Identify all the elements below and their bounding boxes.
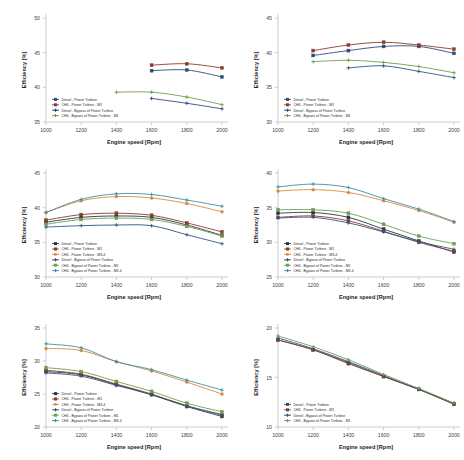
legend-label: Diesel - Bypass of Power Turbine xyxy=(62,109,114,113)
x-tick-label: 1600 xyxy=(146,282,158,288)
x-tick-label: 1800 xyxy=(413,127,425,133)
legend-item[interactable]: CH4 - Bypass of Power Turbine - M1 xyxy=(52,114,119,118)
x-tick-label: 2000 xyxy=(216,432,228,438)
legend-item[interactable]: Diesel - Power Turbine xyxy=(284,242,329,246)
x-tick-label: 1400 xyxy=(111,282,123,288)
y-tick-label: 30 xyxy=(266,119,272,125)
series-1 xyxy=(277,338,456,405)
y-tick-label: 35 xyxy=(34,119,40,125)
legend-item[interactable]: CH4 - Bypass of Power Turbine - M3-4 xyxy=(52,269,122,273)
x-tick-label: 1200 xyxy=(307,282,319,288)
series-5 xyxy=(45,217,224,238)
y-tick-label: 30 xyxy=(34,274,40,280)
legend-label: Diesel - Power Turbine xyxy=(62,98,97,102)
y-tick-label: 40 xyxy=(266,50,272,56)
legend-label: CH4 - Power Turbine - M1 xyxy=(62,247,103,251)
x-tick-label: 2000 xyxy=(216,282,228,288)
y-tick-label: 45 xyxy=(34,50,40,56)
legend-label: Diesel - Power Turbine xyxy=(294,242,329,246)
legend-item[interactable]: CH4 - Bypass of Power Turbine - M1 xyxy=(52,414,119,418)
x-tick-label: 1000 xyxy=(272,282,284,288)
x-axis-label: Engine speed [Rpm] xyxy=(339,294,393,300)
legend-item[interactable]: Diesel - Power Turbine xyxy=(284,403,329,407)
x-tick-label: 1000 xyxy=(40,127,52,133)
legend-item[interactable]: CH4 - Power Turbine - M3-4 xyxy=(284,253,337,257)
legend-label: CH4 - Bypass of Power Turbine - M1 xyxy=(62,264,119,268)
y-tick-label: 45 xyxy=(34,170,40,176)
series-3 xyxy=(45,347,224,396)
x-tick-label: 1600 xyxy=(146,127,158,133)
legend-label: Diesel - Power Turbine xyxy=(62,242,97,246)
legend-item[interactable]: Diesel - Power Turbine xyxy=(52,392,97,396)
y-axis-label: Efficiency [%] xyxy=(21,52,27,89)
legend-item[interactable]: Diesel - Bypass of Power Turbine xyxy=(284,258,345,262)
x-tick-label: 1200 xyxy=(75,127,87,133)
x-tick-label: 1400 xyxy=(111,432,123,438)
chart-panel-6: 101520100012001400160018002000Engine spe… xyxy=(232,310,464,460)
series-2 xyxy=(277,338,456,405)
series-2 xyxy=(45,212,224,234)
legend-label: CH4 - Bypass of Power Turbine - M3-4 xyxy=(62,419,122,423)
x-tick-label: 1200 xyxy=(75,432,87,438)
legend-label: CH4 - Bypass of Power Turbine - M1 xyxy=(62,114,119,118)
y-tick-label: 20 xyxy=(34,424,40,430)
legend-item[interactable]: CH4 - Power Turbine - M1 xyxy=(52,397,102,401)
y-tick-label: 35 xyxy=(266,205,272,211)
y-axis-label: Efficiency [%] xyxy=(253,359,259,396)
x-tick-label: 1200 xyxy=(307,127,319,133)
legend-item[interactable]: CH4 - Power Turbine - M1 xyxy=(284,247,334,251)
legend-label: CH4 - Power Turbine - M3-4 xyxy=(294,253,338,257)
legend-label: Diesel - Bypass of Power Turbine xyxy=(62,258,114,262)
y-axis-label: Efficiency [%] xyxy=(21,207,27,244)
y-tick-label: 35 xyxy=(266,84,272,90)
x-tick-label: 1400 xyxy=(111,127,123,133)
legend-item[interactable]: Diesel - Bypass of Power Turbine xyxy=(52,408,113,412)
y-tick-label: 25 xyxy=(34,391,40,397)
y-axis-label: Efficiency [%] xyxy=(21,359,27,396)
legend-label: Diesel - Power Turbine xyxy=(294,98,329,102)
legend-label: Diesel - Bypass of Power Turbine xyxy=(62,408,114,412)
y-tick-label: 50 xyxy=(34,15,40,21)
x-tick-label: 1800 xyxy=(413,432,425,438)
x-tick-label: 1400 xyxy=(343,127,355,133)
x-axis-label: Engine speed [Rpm] xyxy=(107,294,161,300)
x-tick-label: 1600 xyxy=(378,432,390,438)
legend-item[interactable]: CH4 - Bypass of Power Turbine - M1 xyxy=(284,264,351,268)
y-tick-label: 45 xyxy=(266,15,272,21)
legend-item[interactable]: Diesel - Bypass of Power Turbine xyxy=(284,414,345,418)
legend-item[interactable]: CH4 - Power Turbine - M3-4 xyxy=(52,403,105,407)
y-tick-label: 25 xyxy=(266,274,272,280)
legend-item[interactable]: Diesel - Power Turbine xyxy=(52,98,97,102)
legend: Diesel - Power TurbineCH4 - Power Turbin… xyxy=(52,98,119,118)
x-axis-label: Engine speed [Rpm] xyxy=(107,444,161,450)
x-tick-label: 2000 xyxy=(448,127,460,133)
legend-item[interactable]: CH4 - Bypass of Power Turbine - M1 xyxy=(284,419,351,423)
legend-item[interactable]: CH4 - Bypass of Power Turbine - M3-4 xyxy=(284,269,354,273)
legend-label: CH4 - Bypass of Power Turbine - M1 xyxy=(294,419,351,423)
legend-item[interactable]: Diesel - Power Turbine xyxy=(284,98,329,102)
legend-item[interactable]: CH4 - Power Turbine - M1 xyxy=(284,408,334,412)
legend-item[interactable]: CH4 - Bypass of Power Turbine - M3-4 xyxy=(52,419,122,423)
legend-item[interactable]: Diesel - Power Turbine xyxy=(52,242,97,246)
x-tick-label: 1600 xyxy=(378,282,390,288)
y-tick-label: 15 xyxy=(266,375,272,381)
legend-item[interactable]: CH4 - Power Turbine - M1 xyxy=(52,103,102,107)
legend-item[interactable]: Diesel - Bypass of Power Turbine xyxy=(284,109,345,113)
y-tick-label: 40 xyxy=(34,205,40,211)
legend-label: Diesel - Bypass of Power Turbine xyxy=(294,258,346,262)
legend-item[interactable]: CH4 - Bypass of Power Turbine - M1 xyxy=(284,114,351,118)
legend: Diesel - Power TurbineCH4 - Power Turbin… xyxy=(52,392,122,423)
legend-item[interactable]: CH4 - Power Turbine - M3-4 xyxy=(52,253,105,257)
legend-item[interactable]: CH4 - Power Turbine - M1 xyxy=(284,103,334,107)
legend-item[interactable]: Diesel - Bypass of Power Turbine xyxy=(52,258,113,262)
legend-label: CH4 - Power Turbine - M3-4 xyxy=(62,253,106,257)
x-tick-label: 1000 xyxy=(272,432,284,438)
x-tick-label: 1200 xyxy=(307,432,319,438)
x-tick-label: 2000 xyxy=(216,127,228,133)
legend-item[interactable]: Diesel - Bypass of Power Turbine xyxy=(52,109,113,113)
chart-panel-5: 20253035100012001400160018002000Engine s… xyxy=(0,310,232,460)
legend-item[interactable]: CH4 - Bypass of Power Turbine - M1 xyxy=(52,264,119,268)
legend-item[interactable]: CH4 - Power Turbine - M1 xyxy=(52,247,102,251)
x-tick-label: 1800 xyxy=(181,282,193,288)
x-tick-label: 1800 xyxy=(413,282,425,288)
